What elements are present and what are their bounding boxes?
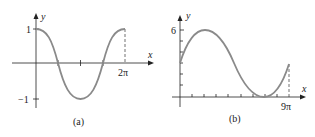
x-tick-9pi: 9π (281, 101, 291, 112)
panel-b: y x 6 9π (b) (171, 10, 307, 125)
sinusoid-curve (180, 30, 289, 97)
x-label-a: x (147, 49, 153, 60)
y-label-b: y (185, 10, 191, 21)
y-axis-arrow-icon (34, 13, 39, 19)
caption-b: (b) (229, 113, 241, 125)
figure: y x 1 −1 2π (a) y x 6 (0, 0, 315, 137)
y-tick-neg1: −1 (18, 94, 29, 105)
y-tick-1: 1 (26, 24, 31, 35)
x-axis-arrow-icon (300, 95, 306, 100)
caption-a: (a) (73, 116, 84, 128)
y-axis-arrow-icon (178, 15, 183, 21)
x-label-b: x (301, 83, 307, 94)
x-axis-arrow-icon (148, 61, 154, 66)
x-tick-2pi: 2π (118, 67, 128, 78)
y-tick-6: 6 (171, 25, 176, 36)
y-label-a: y (40, 11, 46, 22)
panel-a: y x 1 −1 2π (a) (12, 11, 154, 128)
